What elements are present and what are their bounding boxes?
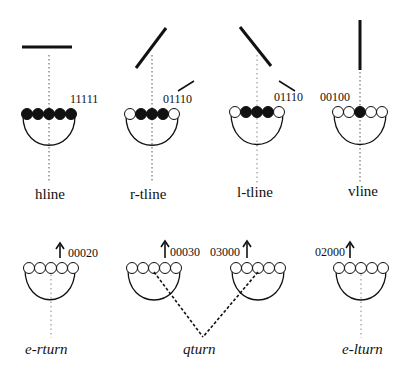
r-tline-code: 01110 [163,92,192,106]
e-lturn-label: e-lturn [342,341,383,357]
hline-code: 11111 [70,92,98,106]
l-tline-stimulus-bar [240,27,271,66]
vline-label: vline [348,183,378,199]
l-tline-code: 01110 [274,90,303,104]
l-tline-label: l-tline [237,184,273,200]
qturn-convergence-lines [154,272,258,337]
qturn-right-code: 03000 [210,245,240,259]
qturn-left-detector: 00030 [127,241,201,300]
e-rturn-detector: 00020 e-rturn [24,243,99,357]
e-lturn-receptor-circles [334,263,389,274]
qturn-label: qturn [183,341,216,357]
e-lturn-code: 02000 [315,245,345,259]
qturn-right-up-arrow-icon [243,241,251,258]
e-rturn-code: 00020 [68,246,98,260]
qturn-left-bowl [128,270,180,300]
l-tline-detector: 01110 l-tline [230,27,304,200]
r-tline-secondary-tick [178,81,194,91]
receptive-field-diagram: 11111 hline 01110 r-tline 01110 [0,0,407,370]
hline-detector: 11111 hline [22,47,99,202]
e-lturn-up-arrow-icon [346,242,354,258]
vline-code: 00100 [320,90,350,104]
qturn-left-up-arrow-icon [161,241,169,258]
qturn-left-receptor-circles [127,263,182,274]
l-tline-receptor-circles [230,107,285,118]
r-tline-detector: 01110 r-tline [125,28,195,202]
e-rturn-receptor-circles [24,263,79,274]
qturn-left-code: 00030 [170,245,200,259]
vline-receptor-circles [333,107,388,118]
e-rturn-label: e-rturn [25,341,68,357]
e-rturn-up-arrow-icon [56,243,64,258]
vline-detector: 00100 vline [320,20,388,199]
qturn-right-detector: 03000 [210,241,286,300]
qturn-right-receptor-circles [231,263,286,274]
r-tline-stimulus-bar [136,28,166,68]
hline-receptor-circles [22,109,77,120]
r-tline-receptor-circles [125,109,180,120]
hline-label: hline [35,186,65,202]
e-lturn-detector: 02000 e-lturn [315,242,389,357]
r-tline-label: r-tline [130,186,167,202]
qturn-right-bowl [232,270,284,300]
